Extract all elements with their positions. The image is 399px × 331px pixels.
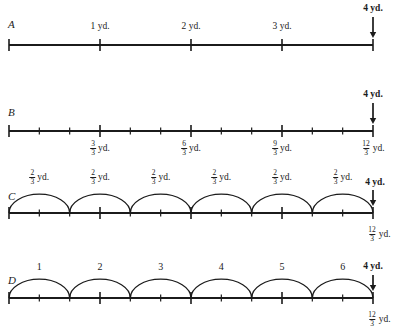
line-c-arc-2-denominator: 3 <box>90 177 96 186</box>
line-c-end-fraction: 123yd. <box>367 226 390 243</box>
line-b-fraction-label-4: 123yd. <box>361 140 384 157</box>
number-lines-svg <box>0 0 399 331</box>
line-c-arc-3-unit: yd. <box>159 173 171 183</box>
line-c-arc-3-fraction: 23 <box>151 169 157 186</box>
line-b-label-4-unit: yd. <box>373 144 385 154</box>
line-a-end-label: 4 yd. <box>363 3 383 13</box>
line-c-arc-label-6: 23yd. <box>333 169 353 186</box>
line-d-end-numerator: 12 <box>367 311 377 319</box>
line-b-label-2-unit: yd. <box>189 144 201 154</box>
line-b-label-3-numerator: 9 <box>272 140 278 148</box>
line-c-arc-2-unit: yd. <box>98 173 110 183</box>
line-b-end-label: 4 yd. <box>363 89 383 99</box>
line-d-end-denominator: 3 <box>369 319 375 328</box>
line-c-arc-label-5: 23yd. <box>272 169 292 186</box>
line-b-label-3-fraction: 93 <box>272 140 278 157</box>
line-c-end-numerator: 12 <box>367 226 377 234</box>
line-b-label-2-fraction: 63 <box>181 140 187 157</box>
line-b-label-4-denominator: 3 <box>363 148 369 157</box>
line-d-arc-number-1: 1 <box>37 262 42 272</box>
line-b-label-2-denominator: 3 <box>181 148 187 157</box>
row-letter-a: A <box>8 19 15 30</box>
line-c-arc-4-denominator: 3 <box>212 177 218 186</box>
row-letter-c: C <box>8 191 15 202</box>
row-letter-d: D <box>8 275 16 286</box>
line-c-arc-label-2: 23yd. <box>90 169 110 186</box>
line-c-arc-1-numerator: 2 <box>30 169 36 177</box>
line-a-tick-label-1: 1 yd. <box>91 22 110 32</box>
line-b-fraction-label-2: 63yd. <box>181 140 201 157</box>
line-b-label-3-denominator: 3 <box>272 148 278 157</box>
figure-canvas: ABCD1 yd.2 yd.3 yd.4 yd.4 yd.4 yd.4 yd.3… <box>0 0 399 331</box>
line-c-arc-1-denominator: 3 <box>30 177 36 186</box>
line-c-arc-1-unit: yd. <box>37 173 49 183</box>
line-c-end-fraction: 123 <box>367 226 377 243</box>
line-c-arc-label-4: 23yd. <box>212 169 232 186</box>
line-c-end-unit: yd. <box>379 230 391 240</box>
line-d-arc-number-3: 3 <box>158 262 163 272</box>
line-d-end-fraction: 123yd. <box>367 311 390 328</box>
line-c-arc-2-numerator: 2 <box>90 169 96 177</box>
line-d-end-label: 4 yd. <box>363 261 383 271</box>
line-c-arc-label-3: 23yd. <box>151 169 171 186</box>
line-a-tick-label-2: 2 yd. <box>182 22 201 32</box>
line-c-arc-4-fraction: 23 <box>212 169 218 186</box>
line-d-arc-number-5: 5 <box>280 262 285 272</box>
line-d-arc-number-4: 4 <box>219 262 224 272</box>
line-c-arc-label-1: 23yd. <box>30 169 50 186</box>
line-d-arc-number-6: 6 <box>340 262 345 272</box>
line-c-arc-6-unit: yd. <box>341 173 353 183</box>
line-b-label-4-numerator: 12 <box>361 140 371 148</box>
line-c-arc-3-denominator: 3 <box>151 177 157 186</box>
line-b-label-4-fraction: 123 <box>361 140 371 157</box>
line-d-arc-number-2: 2 <box>98 262 103 272</box>
line-b-label-2-numerator: 6 <box>181 140 187 148</box>
line-c-arc-4-numerator: 2 <box>212 169 218 177</box>
line-c-arc-4-unit: yd. <box>219 173 231 183</box>
line-c-arc-5-denominator: 3 <box>272 177 278 186</box>
line-c-arc-6-fraction: 23 <box>333 169 339 186</box>
line-a-tick-label-3: 3 yd. <box>273 22 292 32</box>
line-b-label-1-fraction: 33 <box>90 140 96 157</box>
line-b-label-1-denominator: 3 <box>90 148 96 157</box>
end-arrow-head-A <box>370 32 376 38</box>
line-c-arc-5-fraction: 23 <box>272 169 278 186</box>
line-b-label-1-unit: yd. <box>98 144 110 154</box>
line-b-fraction-label-1: 33yd. <box>90 140 110 157</box>
end-arrow-head-B <box>370 118 376 124</box>
line-c-arc-6-numerator: 2 <box>333 169 339 177</box>
line-d-end-unit: yd. <box>379 315 391 325</box>
line-c-arc-5-numerator: 2 <box>272 169 278 177</box>
line-c-arc-1-fraction: 23 <box>30 169 36 186</box>
line-c-arc-5-unit: yd. <box>280 173 292 183</box>
line-c-arc-6-denominator: 3 <box>333 177 339 186</box>
line-b-label-3-unit: yd. <box>280 144 292 154</box>
line-c-arc-2-fraction: 23 <box>90 169 96 186</box>
line-d-end-fraction: 123 <box>367 311 377 328</box>
line-c-end-denominator: 3 <box>369 234 375 243</box>
line-b-fraction-label-3: 93yd. <box>272 140 292 157</box>
line-c-arc-3-numerator: 2 <box>151 169 157 177</box>
row-letter-b: B <box>8 107 15 118</box>
line-c-end-label: 4 yd. <box>365 177 385 187</box>
line-b-label-1-numerator: 3 <box>90 140 96 148</box>
